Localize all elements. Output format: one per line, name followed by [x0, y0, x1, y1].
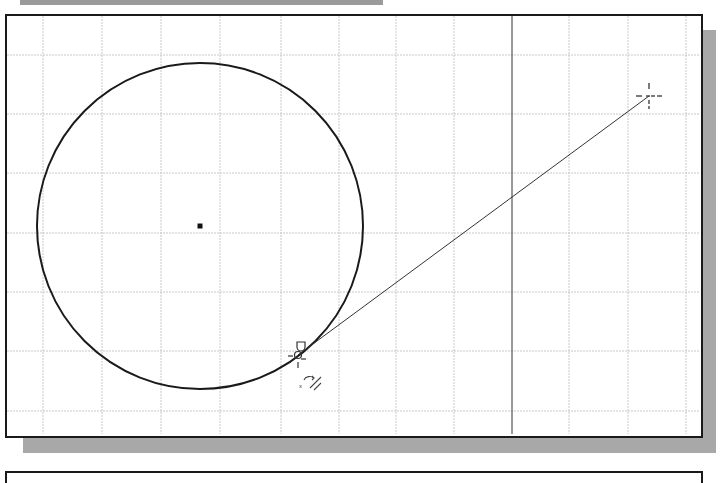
command-line-area[interactable]	[5, 471, 703, 483]
tangent-line-entity[interactable]	[298, 96, 649, 355]
rotate-icon: x	[299, 376, 321, 390]
circle-center-point	[198, 224, 203, 229]
grid	[7, 16, 699, 434]
crosshair-cursor-icon	[636, 83, 662, 109]
svg-text:x: x	[299, 383, 302, 389]
tangent-snap-icon	[288, 342, 306, 368]
